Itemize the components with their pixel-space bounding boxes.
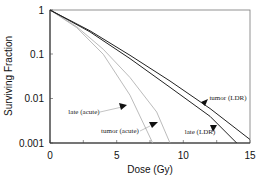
annotation-late-ldr: late (LDR): [185, 125, 217, 136]
x-tick-label: 0: [47, 150, 53, 161]
annotation-label: tumor (LDR): [209, 94, 247, 102]
annotation-late-acute: late (acute): [68, 103, 127, 116]
curve-late-acute: [50, 10, 153, 143]
x-tick-label: 15: [244, 150, 256, 161]
survival-chart: 1 0.1 0.01 0.001 0 5 10 15 Dose (Gy) Sur…: [0, 0, 260, 180]
annotation-label: late (acute): [68, 108, 100, 116]
y-tick-label: 0.01: [25, 93, 45, 104]
y-tick-label: 0.001: [19, 138, 44, 149]
arrowhead-icon: [201, 99, 208, 106]
x-axis-label: Dose (Gy): [127, 164, 173, 175]
y-axis-label: Surviving Fraction: [3, 36, 14, 116]
x-tick-label: 5: [114, 150, 120, 161]
arrowhead-icon: [119, 103, 127, 110]
annotation-label: tumor (acute): [101, 127, 140, 135]
annotation-tumor-ldr: tumor (LDR): [201, 94, 247, 106]
arrowhead-icon: [149, 122, 158, 128]
y-tick-label: 1: [38, 5, 44, 16]
y-tick-label: 0.1: [30, 49, 44, 60]
x-tick-label: 10: [178, 150, 190, 161]
annotation-tumor-acute: tumor (acute): [101, 122, 158, 135]
annotation-label: late (LDR): [185, 128, 216, 136]
